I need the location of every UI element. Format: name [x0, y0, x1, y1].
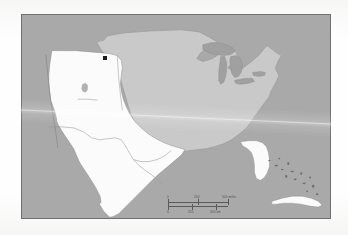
- scale-rule-km: [168, 206, 228, 207]
- map-frame[interactable]: 0 250 500 miles 0 250 500 km: [21, 14, 331, 219]
- site-marker[interactable]: [103, 56, 107, 60]
- scale-label-km-500: 500 km: [210, 210, 221, 214]
- map-canvas[interactable]: [22, 15, 330, 218]
- scale-tick-miles-250: [198, 199, 199, 205]
- scale-tick-miles-500: [228, 199, 229, 205]
- scale-bar: 0 250 500 miles 0 250 500 km: [168, 194, 232, 216]
- scale-label-miles-0: 0: [167, 195, 169, 199]
- scanned-page: 0 250 500 miles 0 250 500 km: [0, 0, 348, 235]
- lake-ontario: [253, 71, 266, 76]
- scale-label-miles-250: 250: [194, 195, 199, 199]
- scale-label-km-0: 0: [167, 210, 169, 214]
- scale-label-miles-500: 500 miles: [222, 195, 236, 199]
- scale-label-km-250: 250: [188, 210, 193, 214]
